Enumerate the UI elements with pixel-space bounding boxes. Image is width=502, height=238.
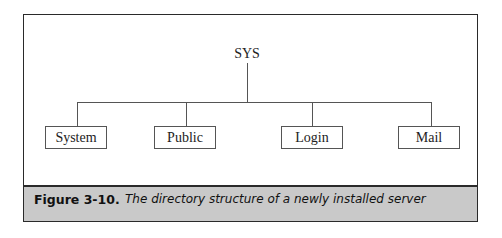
- figure-caption-text: The directory structure of a newly insta…: [125, 192, 426, 206]
- root-stem-line: [247, 63, 248, 102]
- branch-line-mail: [431, 102, 432, 126]
- node-public: Public: [154, 126, 216, 149]
- figure-caption: Figure 3-10. The directory structure of …: [23, 185, 478, 222]
- figure-number: Figure 3-10.: [34, 192, 120, 207]
- branch-line-system: [77, 102, 78, 126]
- node-mail: Mail: [398, 126, 460, 149]
- branch-line-login: [312, 102, 313, 126]
- node-system: System: [45, 126, 107, 149]
- node-login: Login: [281, 126, 343, 149]
- horizontal-branch-line: [77, 102, 432, 103]
- branch-line-public: [186, 102, 187, 126]
- root-node-label: SYS: [227, 46, 267, 62]
